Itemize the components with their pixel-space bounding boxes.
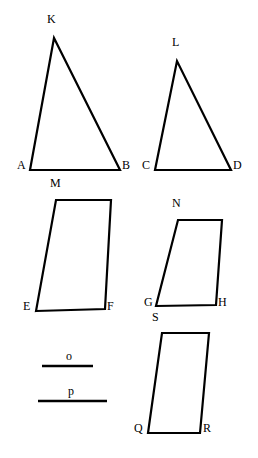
parallelogram-qrs — [148, 333, 209, 433]
triangle-cdl — [155, 61, 231, 170]
vertex-label-q: Q — [134, 422, 143, 434]
vertex-label-c: C — [142, 159, 150, 171]
parallelogram-efm — [36, 200, 111, 311]
vertex-label-f: F — [107, 300, 114, 312]
vertex-label-n: N — [172, 197, 181, 209]
vertex-label-b: B — [122, 159, 130, 171]
vertex-label-s: S — [152, 311, 159, 323]
vertex-label-g: G — [144, 296, 153, 308]
vertex-label-e: E — [23, 300, 30, 312]
parallelogram-ghn — [156, 220, 222, 306]
vertex-label-m: M — [50, 177, 61, 189]
figure-canvas — [0, 0, 258, 458]
triangle-abk — [30, 38, 120, 170]
segment-label-o: o — [66, 350, 72, 362]
vertex-label-r: R — [203, 422, 211, 434]
vertex-label-a: A — [17, 159, 26, 171]
vertex-label-l: L — [172, 36, 179, 48]
segment-label-p: p — [68, 385, 74, 397]
vertex-label-d: D — [233, 159, 242, 171]
vertex-label-h: H — [218, 296, 227, 308]
geometry-figure-sheet: A B K C D L E F M G H N Q R S o p — [0, 0, 258, 458]
vertex-label-k: K — [47, 13, 56, 25]
